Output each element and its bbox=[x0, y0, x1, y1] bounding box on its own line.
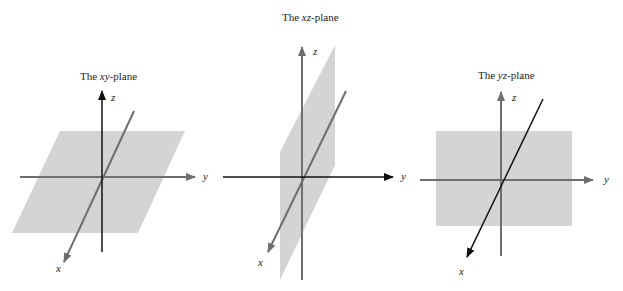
xz-plane-shape bbox=[280, 45, 335, 280]
x-axis-label: x bbox=[459, 265, 464, 277]
y-axis-label: y bbox=[203, 170, 208, 182]
yz-plane-title: The yz-plane bbox=[478, 69, 535, 81]
xy-plane-panel bbox=[12, 91, 195, 262]
z-axis-label: z bbox=[111, 91, 115, 103]
xy-plane-title: The xy-plane bbox=[80, 70, 137, 82]
z-axis-label: z bbox=[313, 45, 317, 57]
yz-plane-panel bbox=[420, 92, 593, 257]
x-axis-label: x bbox=[56, 262, 61, 274]
xz-plane-title: The xz-plane bbox=[282, 11, 339, 23]
x-axis-label: x bbox=[258, 256, 263, 268]
coordinate-planes-diagram bbox=[0, 0, 623, 291]
y-axis-label: y bbox=[604, 173, 609, 185]
y-axis-label: y bbox=[401, 170, 406, 182]
xz-plane-panel bbox=[223, 45, 393, 280]
z-axis-label: z bbox=[512, 91, 516, 103]
xy-plane-shape bbox=[12, 131, 185, 233]
